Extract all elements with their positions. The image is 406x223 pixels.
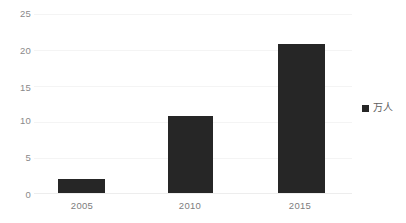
gridline-0 [34, 193, 352, 194]
legend: 万人 [362, 103, 393, 113]
bar-2010 [168, 116, 213, 193]
y-tick-label: 25 [5, 9, 31, 18]
bar-2015 [278, 44, 325, 193]
x-tick-label-2005: 2005 [71, 200, 93, 211]
gridline-25 [34, 14, 352, 15]
x-tick-label-2010: 2010 [179, 200, 201, 211]
x-tick-label-2015: 2015 [289, 200, 311, 211]
plot-area [34, 14, 352, 194]
y-axis: 25 20 15 10 5 0 [0, 0, 31, 223]
legend-square-icon [362, 105, 369, 112]
y-tick-label: 5 [5, 153, 31, 162]
y-tick-label: 15 [5, 83, 31, 92]
bar-chart: 25 20 15 10 5 0 2005 2010 2015 万人 [0, 0, 406, 223]
y-tick-label: 0 [5, 190, 31, 199]
legend-item-label: 万人 [373, 103, 393, 113]
y-tick-label: 20 [5, 46, 31, 55]
bar-2005 [58, 179, 105, 193]
y-tick-label: 10 [5, 116, 31, 125]
